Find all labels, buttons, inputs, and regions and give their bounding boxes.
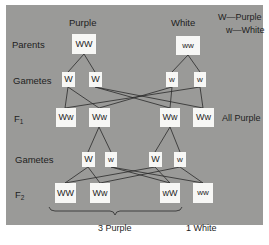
f2-offspring-1: WW — [55, 183, 76, 203]
row-label-f2: F2 — [15, 190, 24, 202]
parent-purple-genotype: WW — [72, 34, 96, 54]
row-label-f1: F1 — [14, 114, 23, 126]
f1-offspring-3: Ww — [160, 108, 180, 127]
legend-white: w—White — [226, 26, 265, 35]
f2-offspring-4: ww — [193, 183, 213, 203]
gamete-1-3: w — [166, 72, 178, 87]
f2-offspring-2: Ww — [90, 183, 110, 203]
header-purple: Purple — [69, 18, 96, 28]
f1-offspring-1: Ww — [56, 108, 76, 127]
f1-subscript: 1 — [20, 118, 24, 125]
f1-offspring-2: Ww — [89, 108, 110, 127]
gamete-2-4: w — [174, 152, 186, 167]
f1-result-note: All Purple — [222, 114, 261, 123]
gamete-2-1: W — [82, 152, 95, 167]
gamete-1-2: W — [89, 72, 102, 87]
gamete-1-1: W — [62, 72, 75, 87]
legend-purple: W—Purple — [218, 13, 262, 22]
gamete-2-3: W — [149, 152, 162, 167]
f2-subscript: 2 — [21, 194, 25, 201]
f1-offspring-4: Ww — [193, 108, 214, 127]
result-white-count: 1 White — [186, 224, 217, 233]
f2-offspring-3: wW — [160, 183, 180, 203]
row-label-gametes-2: Gametes — [15, 155, 54, 165]
gamete-1-4: w — [194, 72, 206, 87]
header-white: White — [171, 18, 195, 28]
gamete-2-2: w — [105, 152, 117, 167]
row-label-gametes-1: Gametes — [13, 76, 52, 86]
result-purple-count: 3 Purple — [98, 224, 132, 233]
row-label-parents: Parents — [12, 40, 45, 50]
parent-white-genotype: ww — [176, 36, 200, 55]
